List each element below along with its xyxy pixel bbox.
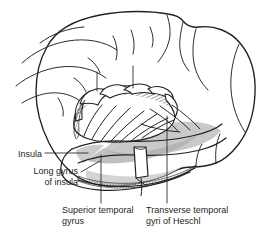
label-superior-temporal-gyrus: Superior temporal gyrus [62,205,142,227]
brain-illustration [0,0,269,233]
label-insula: Insula [0,149,42,160]
brain-anatomy-figure: Insula Long gyrus of insula Superior tem… [0,0,269,233]
label-long-gyrus-of-insula: Long gyrus of insula [0,166,78,188]
label-transverse-temporal-gyri-of-heschl: Transverse temporal gyri of Heschl [146,205,238,227]
insula-region [74,84,178,142]
